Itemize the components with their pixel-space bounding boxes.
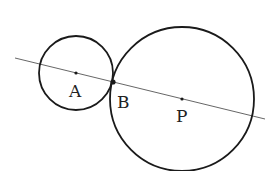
center-line [15, 58, 265, 119]
geometry-figure: A B P [0, 0, 276, 171]
label-A: A [68, 81, 82, 101]
point-P [180, 97, 183, 100]
point-A [74, 71, 77, 74]
label-B: B [117, 92, 130, 112]
label-P: P [176, 106, 187, 126]
point-B [110, 79, 115, 84]
diagram-canvas: A B P [0, 0, 276, 171]
